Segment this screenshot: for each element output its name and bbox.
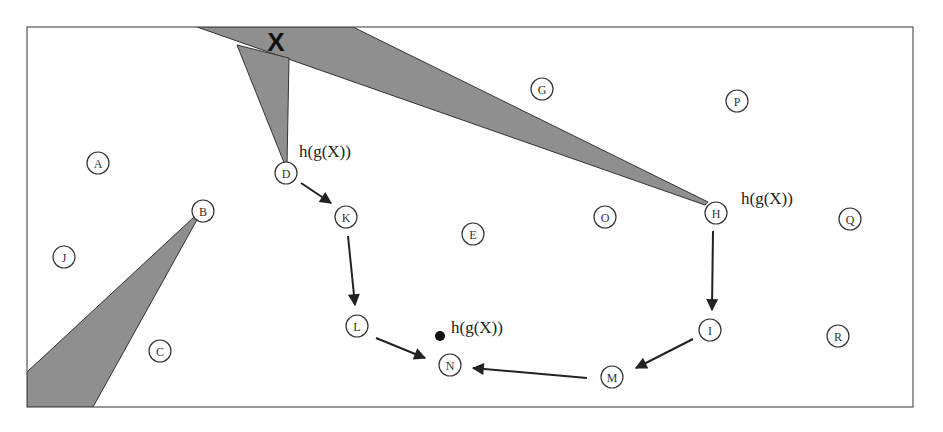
node-g: G (531, 78, 553, 100)
node-e: E (462, 223, 484, 245)
svg-text:G: G (538, 83, 547, 97)
edge-m-n (473, 368, 587, 378)
node-c: C (149, 340, 171, 362)
edge-l-n (376, 338, 425, 358)
annotation-d: h(g(X)) (299, 142, 351, 161)
svg-text:K: K (342, 211, 351, 225)
edge-k-l (348, 236, 355, 305)
svg-text:N: N (446, 359, 455, 373)
node-k: K (335, 206, 357, 228)
node-r: R (827, 325, 849, 347)
node-p: P (726, 90, 748, 112)
svg-text:C: C (156, 345, 164, 359)
region-label-x: X (267, 27, 285, 57)
node-j: J (53, 246, 75, 268)
svg-text:A: A (94, 157, 103, 171)
edge-i-m (636, 339, 693, 368)
annotation-h: h(g(X)) (741, 189, 793, 208)
svg-text:R: R (834, 330, 842, 344)
svg-text:B: B (199, 205, 207, 219)
svg-text:Q: Q (846, 213, 855, 227)
node-b: B (192, 200, 214, 222)
point-marker (435, 331, 445, 341)
svg-text:O: O (601, 211, 610, 225)
svg-text:D: D (282, 167, 291, 181)
node-o: O (594, 206, 616, 228)
edge-d-k (301, 183, 331, 203)
svg-text:E: E (469, 228, 476, 242)
node-d: D (275, 162, 297, 184)
node-h: H (705, 202, 727, 224)
region-x-small-wedge (237, 45, 289, 165)
annotation-point: h(g(X)) (451, 318, 503, 337)
node-l: L (346, 315, 368, 337)
node-q: Q (839, 208, 861, 230)
node-n: N (439, 354, 461, 376)
node-m: M (601, 366, 623, 388)
node-i: I (699, 319, 721, 341)
svg-text:J: J (62, 251, 67, 265)
svg-text:P: P (734, 95, 741, 109)
svg-text:L: L (353, 320, 360, 334)
svg-text:H: H (712, 207, 721, 221)
node-a: A (87, 152, 109, 174)
region-b-wedge (27, 217, 198, 407)
svg-text:I: I (708, 324, 712, 338)
edges-group (301, 183, 713, 378)
svg-text:M: M (607, 371, 618, 385)
diagram-canvas: X h(g(X)) h(g(X)) h(g(X)) A B C D E G H … (0, 0, 943, 432)
edge-h-i (712, 231, 713, 310)
